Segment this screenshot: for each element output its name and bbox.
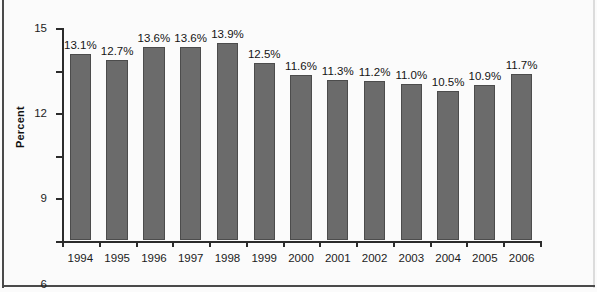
y-axis-tick-mark: 6 <box>56 156 62 158</box>
bar[interactable] <box>106 60 127 240</box>
bar-value-label: 13.9% <box>211 28 244 40</box>
x-axis-category-label: 1997 <box>178 252 204 264</box>
bar-column[interactable]: 13.9% <box>217 27 238 240</box>
y-axis-tick-label: 15 <box>34 22 47 34</box>
bar-column[interactable]: 12.7% <box>106 27 127 240</box>
bar-value-label: 11.0% <box>395 69 427 81</box>
y-axis-tick-label: 9 <box>41 192 47 204</box>
bar-value-label: 11.2% <box>359 66 391 78</box>
bar-column[interactable]: 10.5% <box>437 27 458 240</box>
page-frame-left-border <box>2 0 4 288</box>
y-axis-tick-mark: 12 <box>56 71 62 73</box>
x-axis-tick-mark <box>430 241 432 247</box>
bar-value-label: 13.6% <box>174 32 207 44</box>
x-axis-tick-mark <box>503 241 505 247</box>
x-axis-tick-mark <box>283 241 285 247</box>
bar-column[interactable]: 13.1% <box>70 27 91 240</box>
y-axis-tick-label: 6 <box>41 278 47 290</box>
x-axis-category-label: 1995 <box>104 252 130 264</box>
chart-figure: Percent 03691215 13.1%12.7%13.6%13.6%13.… <box>0 0 597 292</box>
x-axis-category-label: 1994 <box>68 252 94 264</box>
y-axis-line <box>62 28 64 243</box>
bar-column[interactable]: 11.0% <box>401 27 422 240</box>
x-axis-tick-mark <box>209 241 211 247</box>
bar-column[interactable]: 11.2% <box>364 27 385 240</box>
x-axis-tick-mark <box>319 241 321 247</box>
bar[interactable] <box>327 80 348 240</box>
bar[interactable] <box>143 47 164 240</box>
x-axis-category-label: 1996 <box>141 252 167 264</box>
y-axis-title: Percent <box>14 106 26 148</box>
x-axis-category-label: 2000 <box>288 252 314 264</box>
bar[interactable] <box>437 91 458 240</box>
bar[interactable] <box>254 63 275 241</box>
x-axis-tick-mark <box>99 241 101 247</box>
x-axis-category-label: 2001 <box>325 252 351 264</box>
bar[interactable] <box>290 75 311 240</box>
x-axis-tick-mark <box>62 241 64 247</box>
page-frame-right-border <box>593 0 595 288</box>
bar[interactable] <box>474 85 495 240</box>
x-axis-category-label: 1999 <box>251 252 277 264</box>
bar-value-label: 10.5% <box>432 76 465 88</box>
bar[interactable] <box>401 84 422 240</box>
bar[interactable] <box>511 74 532 240</box>
y-axis-tick-mark: 9 <box>56 113 62 115</box>
bar-column[interactable]: 13.6% <box>180 27 201 240</box>
bar[interactable] <box>70 54 91 240</box>
plot-area: 03691215 13.1%12.7%13.6%13.6%13.9%12.5%1… <box>62 28 560 242</box>
bar-value-label: 13.6% <box>138 32 171 44</box>
bar-column[interactable]: 11.6% <box>290 27 311 240</box>
bar-column[interactable]: 13.6% <box>143 27 164 240</box>
bar-value-label: 10.9% <box>469 70 502 82</box>
x-axis-tick-mark <box>356 241 358 247</box>
x-axis-category-label: 2004 <box>435 252 461 264</box>
bar-value-label: 12.5% <box>248 48 281 60</box>
bar[interactable] <box>217 43 238 240</box>
x-axis-category-label: 2006 <box>509 252 535 264</box>
bar-column[interactable]: 10.9% <box>474 27 495 240</box>
y-axis-tick-label: 12 <box>34 107 47 119</box>
bar-value-label: 11.7% <box>506 59 538 71</box>
y-axis-tick-mark: 15 <box>56 28 62 30</box>
x-axis-tick-mark <box>466 241 468 247</box>
bar-value-label: 12.7% <box>101 45 134 57</box>
x-axis-category-label: 2005 <box>472 252 498 264</box>
bar-value-label: 11.6% <box>285 60 317 72</box>
x-axis-category-label: 1998 <box>215 252 241 264</box>
x-axis-tick-mark <box>393 241 395 247</box>
x-axis-tick-mark <box>172 241 174 247</box>
x-axis-category-label: 2003 <box>399 252 425 264</box>
bar-column[interactable]: 11.7% <box>511 27 532 240</box>
bar-column[interactable]: 11.3% <box>327 27 348 240</box>
x-axis-category-label: 2002 <box>362 252 388 264</box>
page-frame-bottom-border <box>2 285 595 287</box>
bar[interactable] <box>180 47 201 240</box>
x-axis-tick-mark <box>540 241 542 247</box>
bar-column[interactable]: 12.5% <box>254 27 275 240</box>
bar[interactable] <box>364 81 385 240</box>
bar-value-label: 11.3% <box>322 65 354 77</box>
y-axis-tick-mark: 3 <box>56 198 62 200</box>
x-axis-tick-mark <box>246 241 248 247</box>
x-axis-tick-mark <box>136 241 138 247</box>
bar-value-label: 13.1% <box>64 39 97 51</box>
